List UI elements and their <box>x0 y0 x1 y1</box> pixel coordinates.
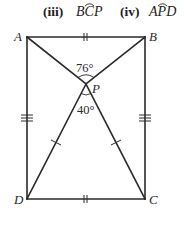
question-iv: (iv) APD <box>120 4 176 19</box>
angle-arc-apb-icon <box>78 75 94 78</box>
angle-arc-dpc-icon <box>81 94 91 96</box>
angle-apb-value: 76° <box>76 61 94 75</box>
angle-dpc-value: 40° <box>77 103 95 117</box>
angle-bcp-label: BCP <box>76 4 103 19</box>
angle-apd-label: APD <box>148 4 176 19</box>
vertex-d-label: D <box>13 192 24 207</box>
question-number-iii: (iii) <box>43 4 63 19</box>
vertex-c-label: C <box>149 192 158 207</box>
segment-pc <box>86 84 145 199</box>
vertex-b-label: B <box>149 29 157 44</box>
question-iii: (iii) BCP <box>43 4 103 19</box>
segment-bp <box>86 37 145 84</box>
vertex-p-label: P <box>91 81 100 96</box>
question-number-iv: (iv) <box>120 4 140 19</box>
segment-pd <box>27 84 86 199</box>
geometry-diagram: (iii) BCP (iv) APD 76° 40° <box>0 0 184 225</box>
vertex-a-label: A <box>13 29 22 44</box>
